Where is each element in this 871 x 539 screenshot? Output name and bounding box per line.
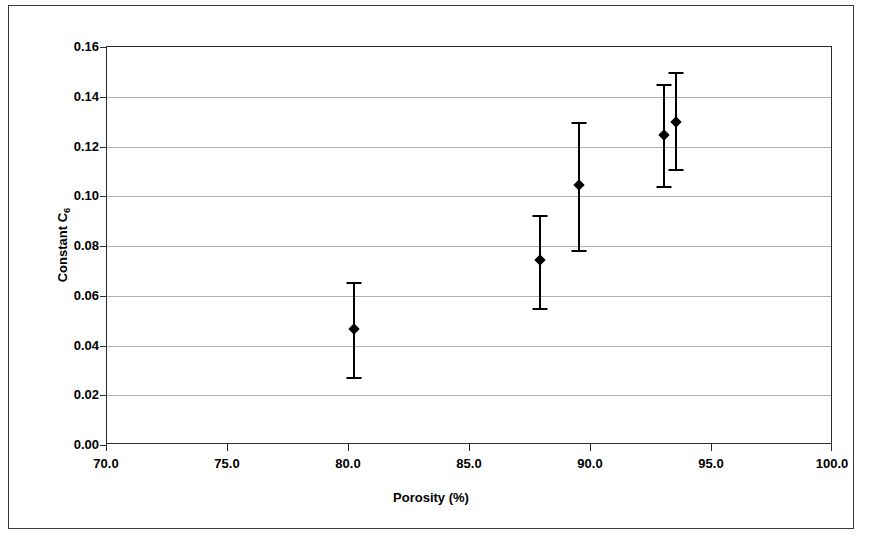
y-tick-mark — [100, 97, 107, 98]
error-bar-cap-upper — [656, 84, 671, 86]
y-tick-label: 0.00 — [74, 437, 99, 452]
chart-figure: Constant C6 0.000.020.040.060.080.100.12… — [0, 0, 871, 539]
x-tick-mark — [590, 444, 591, 451]
x-tick-mark — [106, 444, 107, 451]
data-point-marker — [670, 116, 681, 127]
error-bar-cap-upper — [533, 215, 548, 217]
y-tick-mark — [100, 346, 107, 347]
x-tick-label: 85.0 — [456, 456, 481, 471]
x-axis-tick-marks — [106, 444, 832, 452]
x-tick-label: 95.0 — [698, 456, 723, 471]
y-tick-label: 0.08 — [74, 238, 99, 253]
plot-area — [106, 46, 832, 444]
x-tick-mark — [348, 444, 349, 451]
error-bar-cap-lower — [533, 308, 548, 310]
error-bar-cap-lower — [656, 186, 671, 188]
x-tick-mark — [831, 444, 832, 451]
data-point-marker — [348, 324, 359, 335]
y-axis-tick-labels: 0.000.020.040.060.080.100.120.140.16 — [46, 46, 99, 444]
y-tick-label: 0.04 — [74, 337, 99, 352]
x-tick-mark — [469, 444, 470, 451]
y-tick-mark — [100, 296, 107, 297]
data-point-marker — [658, 130, 669, 141]
x-tick-label: 100.0 — [816, 456, 849, 471]
x-tick-mark — [711, 444, 712, 451]
y-tick-label: 0.16 — [74, 39, 99, 54]
y-tick-label: 0.14 — [74, 88, 99, 103]
y-tick-label: 0.06 — [74, 287, 99, 302]
y-tick-mark — [100, 47, 107, 48]
x-tick-label: 90.0 — [577, 456, 602, 471]
x-tick-label: 75.0 — [214, 456, 239, 471]
data-point-marker — [573, 179, 584, 190]
y-tick-label: 0.02 — [74, 387, 99, 402]
error-bar-cap-upper — [571, 122, 586, 124]
y-tick-mark — [100, 147, 107, 148]
error-bar-cap-lower — [346, 377, 361, 379]
figure-border: Constant C6 0.000.020.040.060.080.100.12… — [8, 5, 854, 529]
y-tick-mark — [100, 196, 107, 197]
x-tick-mark — [227, 444, 228, 451]
error-bar-cap-upper — [346, 282, 361, 284]
error-bar-cap-lower — [571, 250, 586, 252]
y-tick-mark — [100, 246, 107, 247]
data-series — [107, 47, 831, 443]
x-axis-title: Porosity (%) — [9, 490, 853, 505]
error-bar-cap-upper — [668, 72, 683, 74]
x-axis-tick-labels: 70.075.080.085.090.095.0100.0 — [106, 456, 832, 478]
y-tick-mark — [100, 395, 107, 396]
data-point-marker — [535, 254, 546, 265]
y-tick-label: 0.12 — [74, 138, 99, 153]
x-tick-label: 70.0 — [93, 456, 118, 471]
error-bar-cap-lower — [668, 169, 683, 171]
y-tick-label: 0.10 — [74, 188, 99, 203]
x-tick-label: 80.0 — [335, 456, 360, 471]
